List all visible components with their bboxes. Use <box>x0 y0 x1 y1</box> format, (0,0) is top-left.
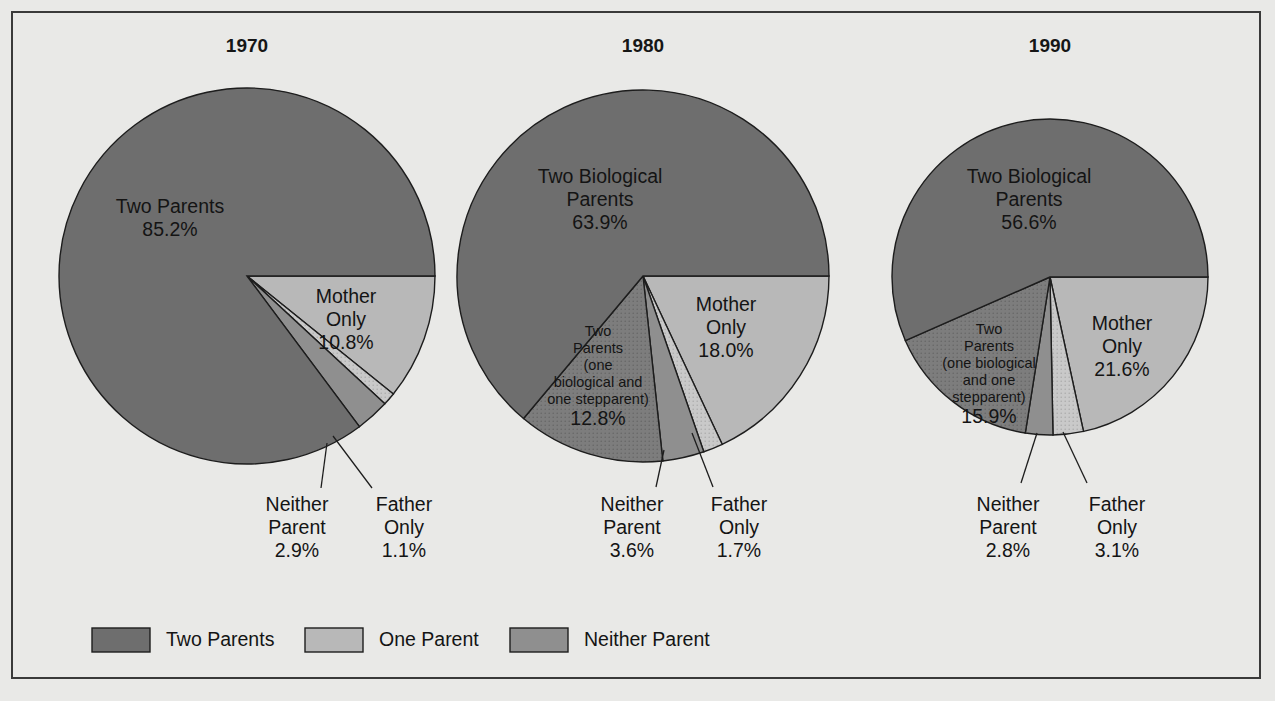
pie-chart-1990: 1990Two BiologicalParents56.6%MotherOnly… <box>892 35 1208 561</box>
legend-item: Two Parents <box>92 628 275 652</box>
leader-line <box>333 436 372 488</box>
legend-swatch <box>510 628 568 652</box>
legend-label: Two Parents <box>166 628 275 650</box>
slice-label: FatherOnly3.1% <box>1089 493 1146 561</box>
legend-label: Neither Parent <box>584 628 710 650</box>
slice-label: FatherOnly1.1% <box>376 493 433 561</box>
pie-chart-group: 1970Two Parents85.2%MotherOnly10.8%Fathe… <box>0 0 1275 701</box>
figure-canvas: 1970Two Parents85.2%MotherOnly10.8%Fathe… <box>0 0 1275 701</box>
legend-label: One Parent <box>379 628 479 650</box>
legend-swatch <box>305 628 363 652</box>
leader-line <box>1021 433 1037 483</box>
pie-chart-1970: 1970Two Parents85.2%MotherOnly10.8%Fathe… <box>59 35 435 561</box>
pie-title-1980: 1980 <box>622 35 664 56</box>
leader-line <box>1063 432 1087 483</box>
legend-item: One Parent <box>305 628 479 652</box>
slice-label: NeitherParent2.8% <box>977 493 1040 561</box>
pie-title-1970: 1970 <box>226 35 268 56</box>
leader-line <box>321 443 327 488</box>
slice-label: NeitherParent3.6% <box>601 493 664 561</box>
slice-label: FatherOnly1.7% <box>711 493 768 561</box>
legend-swatch <box>92 628 150 652</box>
legend-item: Neither Parent <box>510 628 710 652</box>
pie-title-1990: 1990 <box>1029 35 1071 56</box>
slice-label: NeitherParent2.9% <box>266 493 329 561</box>
pie-chart-1980: 1980Two BiologicalParents63.9%MotherOnly… <box>457 35 829 561</box>
